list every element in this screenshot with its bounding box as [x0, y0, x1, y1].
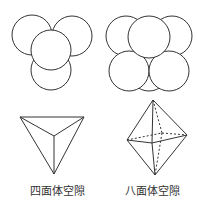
diagram-canvas — [0, 0, 198, 206]
circle-top — [31, 30, 71, 70]
tetrahedral-void-label: 四面体空隙 — [30, 182, 85, 198]
octahedral-circles — [106, 16, 192, 91]
tetrahedral-circles — [12, 15, 92, 90]
circle-top — [128, 16, 170, 58]
octahedron-shape — [127, 100, 187, 175]
octahedral-void-label: 八面体空隙 — [125, 182, 180, 198]
tetrahedron-shape — [20, 117, 84, 174]
